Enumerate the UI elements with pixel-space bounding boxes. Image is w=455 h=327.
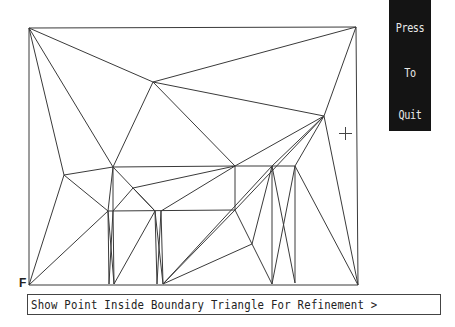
- mesh-edge: [324, 27, 356, 116]
- mesh-edge: [295, 166, 358, 285]
- mesh-edge: [356, 27, 358, 285]
- mesh-edge: [153, 82, 235, 166]
- mesh-edge: [252, 166, 272, 244]
- mesh-edge: [324, 116, 358, 285]
- mesh-edge: [163, 244, 252, 284]
- triangulation-mesh[interactable]: [0, 0, 455, 327]
- mesh-edge: [109, 211, 113, 284]
- quit-button[interactable]: Press To Quit: [389, 0, 431, 131]
- mesh-edge: [161, 166, 235, 211]
- mesh-edge: [64, 167, 113, 175]
- mesh-edge: [235, 210, 252, 244]
- mesh-edge: [113, 188, 133, 211]
- mesh-edge: [113, 82, 153, 167]
- quit-label-to: To: [392, 66, 428, 80]
- corner-label: F: [19, 276, 26, 290]
- quit-label-quit: Quit: [392, 108, 428, 122]
- mesh-edge: [108, 167, 113, 211]
- mesh-edge: [295, 116, 324, 166]
- mesh-edge: [108, 210, 235, 211]
- mesh-edge: [252, 244, 272, 284]
- crosshair-icon: [339, 127, 352, 140]
- mesh-edge: [29, 27, 356, 28]
- mesh-edge: [114, 211, 155, 284]
- mesh-edge: [29, 28, 64, 175]
- mesh-edge: [29, 28, 153, 82]
- mesh-edge: [153, 27, 356, 82]
- quit-label-press: Press: [392, 21, 428, 35]
- mesh-edge: [29, 28, 113, 167]
- mesh-edge: [64, 175, 108, 211]
- prompt-text: Show Point Inside Boundary Triangle For …: [31, 297, 378, 312]
- prompt-box: Show Point Inside Boundary Triangle For …: [27, 294, 441, 315]
- mesh-edge: [163, 166, 272, 284]
- mesh-edge: [133, 166, 235, 188]
- mesh-edge: [153, 82, 324, 116]
- mesh-edge: [113, 166, 235, 167]
- mesh-edge: [157, 211, 161, 284]
